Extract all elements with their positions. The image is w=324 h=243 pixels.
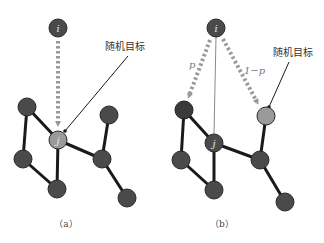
- panel-b: p 1−p i j 随机目标 （b）: [172, 19, 313, 229]
- node: [205, 181, 223, 199]
- node: [251, 151, 269, 169]
- node: [18, 98, 36, 116]
- caption-b: （b）: [210, 219, 234, 229]
- annotation-pointer: [65, 56, 128, 131]
- node: [118, 189, 136, 207]
- node-neighbor-target: [175, 101, 193, 119]
- annotation-random-target: 随机目标: [105, 40, 145, 52]
- diagram-canvas: i j 随机目标 （a） p 1−p: [0, 0, 324, 243]
- node: [48, 180, 66, 198]
- pointer-dot: [63, 129, 67, 133]
- node: [172, 151, 190, 169]
- caption-a: （a）: [54, 219, 77, 229]
- node: [100, 106, 118, 124]
- node-i-label: i: [214, 23, 217, 34]
- node: [276, 193, 294, 211]
- node-i-label: i: [56, 23, 59, 34]
- prob-1-minus-p-label: 1−p: [244, 65, 266, 76]
- node-random-target: [257, 107, 275, 125]
- node: [14, 150, 32, 168]
- annotation-pointer: [269, 62, 289, 107]
- node: [93, 150, 111, 168]
- prob-p-label: p: [189, 59, 196, 70]
- panel-a: i j 随机目标 （a）: [14, 19, 145, 229]
- link-i-j: [214, 37, 216, 134]
- annotation-random-target: 随机目标: [273, 46, 313, 58]
